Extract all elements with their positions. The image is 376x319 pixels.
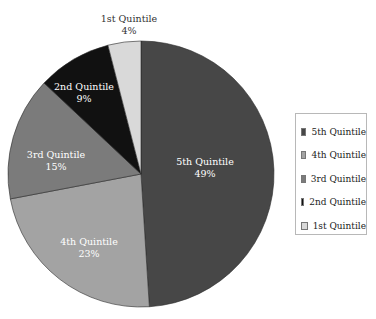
label-2nd-quintile: 2nd Quintile 9%: [54, 81, 114, 105]
label-4th-quintile: 4th Quintile 23%: [60, 236, 118, 260]
legend-label: 1st Quintile: [313, 221, 366, 231]
label-5th-quintile: 5th Quintile 49%: [176, 156, 234, 180]
chart-legend: 5th Quintile 4th Quintile 3rd Quintile 2…: [295, 113, 367, 235]
label-name: 3rd Quintile: [27, 149, 85, 161]
label-pct: 9%: [54, 93, 114, 105]
label-pct: 49%: [176, 168, 234, 180]
label-1st-quintile: 1st Quintile 4%: [101, 13, 157, 37]
label-pct: 15%: [27, 161, 85, 173]
label-pct: 23%: [60, 248, 118, 260]
legend-label: 4th Quintile: [311, 150, 366, 160]
legend-label: 5th Quintile: [311, 127, 366, 137]
legend-item-3rd-quintile: 3rd Quintile: [301, 167, 366, 191]
legend-item-2nd-quintile: 2nd Quintile: [301, 191, 366, 215]
legend-swatch: [301, 198, 304, 206]
label-name: 4th Quintile: [60, 236, 118, 248]
legend-item-5th-quintile: 5th Quintile: [301, 120, 366, 144]
label-3rd-quintile: 3rd Quintile 15%: [27, 149, 85, 173]
label-name: 2nd Quintile: [54, 81, 114, 93]
legend-label: 3rd Quintile: [311, 174, 366, 184]
legend-label: 2nd Quintile: [309, 197, 366, 207]
legend-item-1st-quintile: 1st Quintile: [301, 214, 366, 238]
label-name: 1st Quintile: [101, 13, 157, 25]
label-name: 5th Quintile: [176, 156, 234, 168]
legend-swatch: [301, 128, 306, 136]
legend-item-4th-quintile: 4th Quintile: [301, 144, 366, 168]
label-pct: 4%: [101, 25, 157, 37]
legend-swatch: [301, 175, 306, 183]
legend-swatch: [301, 151, 306, 159]
legend-swatch: [301, 222, 308, 230]
